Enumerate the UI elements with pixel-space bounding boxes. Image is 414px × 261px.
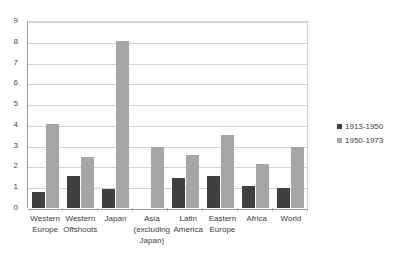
y-tick-label: 6 <box>14 79 18 87</box>
x-axis-ticks <box>28 208 308 212</box>
bar <box>81 157 94 208</box>
bar <box>172 178 185 208</box>
bar-group <box>273 21 308 208</box>
bar <box>242 186 255 208</box>
bar <box>67 176 80 208</box>
legend-item-label: 1913-1950 <box>345 122 383 131</box>
y-tick-label: 5 <box>14 100 18 108</box>
bars-layer <box>28 21 308 208</box>
x-axis-label: World <box>274 213 308 246</box>
bar <box>186 155 199 208</box>
bar-chart: 9876543210 Western EuropeWestern Offshoo… <box>0 0 414 261</box>
x-axis-tick <box>168 208 203 212</box>
bar-group <box>203 21 238 208</box>
y-tick-label: 4 <box>14 121 18 129</box>
bar <box>277 188 290 208</box>
bar <box>256 164 269 208</box>
x-axis-tick <box>238 208 273 212</box>
bar-group <box>28 21 63 208</box>
bar <box>32 192 45 208</box>
bar-group <box>63 21 98 208</box>
x-axis-label: Western Europe <box>28 213 62 246</box>
y-tick-label: 7 <box>14 59 18 67</box>
bar <box>46 124 59 208</box>
bar <box>102 189 115 208</box>
y-tick-label: 2 <box>14 162 18 170</box>
legend-swatch-dark <box>337 124 342 129</box>
y-tick-label: 9 <box>14 17 18 25</box>
bar <box>207 176 220 208</box>
y-tick-label: 8 <box>14 38 18 46</box>
bar-group <box>168 21 203 208</box>
bar <box>116 41 129 208</box>
bar-group <box>133 21 168 208</box>
x-axis-label: Western Offshoots <box>62 213 98 246</box>
x-axis: Western EuropeWestern OffshootsJapanAsia… <box>28 213 308 246</box>
legend-item[interactable]: 1950-1973 <box>337 133 383 147</box>
bar-group <box>238 21 273 208</box>
legend-swatch-light <box>337 138 342 143</box>
x-axis-label: Latin America <box>171 213 205 246</box>
x-axis-tick <box>63 208 98 212</box>
chart-legend: 1913-19501950-1973 <box>337 119 383 147</box>
legend-item[interactable]: 1913-1950 <box>337 119 383 133</box>
bar <box>291 147 304 208</box>
x-axis-label: Eastern Europe <box>205 213 239 246</box>
y-axis: 9876543210 <box>0 21 22 208</box>
x-axis-label: Asia (excluding Japan) <box>133 213 171 246</box>
bar <box>221 135 234 208</box>
bar <box>151 147 164 208</box>
y-tick-label: 3 <box>14 142 18 150</box>
x-axis-tick <box>98 208 133 212</box>
x-axis-tick <box>203 208 238 212</box>
y-tick-label: 1 <box>14 183 18 191</box>
legend-item-label: 1950-1973 <box>345 136 383 145</box>
x-axis-label: Africa <box>240 213 274 246</box>
y-tick-label: 0 <box>14 204 18 212</box>
x-axis-tick <box>28 208 63 212</box>
bar-group <box>98 21 133 208</box>
x-axis-tick <box>273 208 308 212</box>
x-axis-label: Japan <box>98 213 132 246</box>
x-axis-tick <box>133 208 168 212</box>
